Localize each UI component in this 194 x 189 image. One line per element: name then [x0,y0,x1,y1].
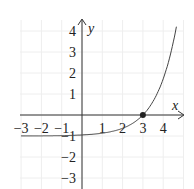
x-tick-label: −2 [34,121,49,136]
y-tick-label: 2 [69,66,76,81]
grid [20,20,184,189]
y-tick-label: 4 [69,24,76,39]
function-graph: −3−2−11234−3−2−11234 x y [0,0,194,189]
y-tick-label: −3 [61,171,76,186]
function-curve [21,27,176,136]
y-axis-label: y [86,21,95,36]
x-tick-label: −3 [14,121,29,136]
x-tick-label: 3 [139,121,146,136]
y-tick-label: −1 [61,129,76,144]
y-tick-label: 1 [69,87,76,102]
x-tick-label: 4 [160,121,167,136]
tick-labels: −3−2−11234−3−2−11234 [14,24,167,186]
y-tick-label: 3 [69,45,76,60]
y-tick-label: −2 [61,150,76,165]
x-intercept-point [140,112,146,118]
x-axis-label: x [171,98,179,113]
